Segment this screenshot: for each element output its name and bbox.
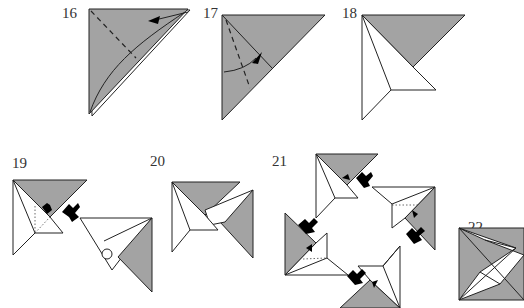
step-number-20: 20 (150, 153, 165, 169)
step-number-21: 21 (272, 153, 287, 169)
step-18: 18 (342, 5, 465, 120)
origami-diagram: 16 17 18 19 20 (0, 0, 524, 308)
step-number-16: 16 (62, 5, 78, 21)
step-22: 22 (459, 219, 524, 300)
step-16: 16 (62, 5, 190, 116)
step-number-19: 19 (12, 155, 27, 171)
step-19: 19 (12, 155, 152, 292)
step-number-17: 17 (203, 5, 219, 21)
step-17: 17 (203, 5, 325, 120)
step-20: 20 (150, 153, 253, 258)
step-number-18: 18 (342, 5, 357, 21)
step-21: 21 (272, 153, 435, 308)
